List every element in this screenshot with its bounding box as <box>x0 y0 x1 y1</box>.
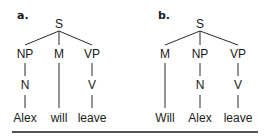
node-n: N <box>196 78 205 92</box>
edge <box>165 31 200 45</box>
node-m: M <box>160 47 170 61</box>
tree-a: a. S NP M VP N V Alex will leave <box>13 9 106 125</box>
tree-label: a. <box>17 9 29 22</box>
node-vp: VP <box>84 47 100 61</box>
node-n: N <box>21 78 30 92</box>
edge <box>25 31 59 45</box>
syntax-tree-diagram: a. S NP M VP N V Alex will leave b. S M … <box>0 0 268 136</box>
word: Will <box>155 111 174 125</box>
tree-label: b. <box>158 9 170 22</box>
root-node-s: S <box>55 17 63 31</box>
word: leave <box>224 111 253 125</box>
node-v: V <box>234 78 242 92</box>
root-node-s: S <box>196 17 204 31</box>
edge <box>59 31 92 45</box>
word: leave <box>78 111 107 125</box>
word: Alex <box>13 111 36 125</box>
edge <box>200 31 238 45</box>
node-np: NP <box>192 47 209 61</box>
word: Alex <box>188 111 211 125</box>
node-v: V <box>88 78 96 92</box>
word: will <box>50 111 68 125</box>
tree-b: b. S M NP VP N V Will Alex leave <box>155 9 252 125</box>
node-vp: VP <box>230 47 246 61</box>
node-m: M <box>54 47 64 61</box>
node-np: NP <box>17 47 34 61</box>
